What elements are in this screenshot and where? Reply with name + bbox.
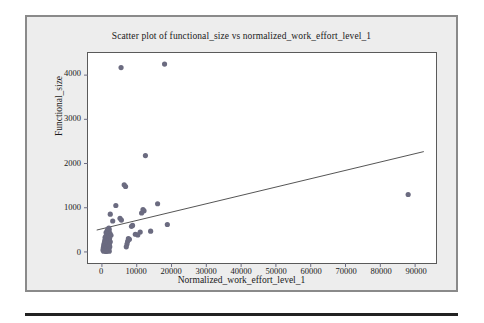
figure-page: Scatter plot of functional_size vs norma… <box>0 0 484 323</box>
data-point <box>119 218 124 223</box>
y-tick-label: 3000 <box>64 114 81 123</box>
data-point <box>143 153 148 158</box>
data-point <box>124 244 129 249</box>
data-point <box>165 222 170 227</box>
data-point <box>155 201 160 206</box>
data-point <box>162 61 167 66</box>
data-point <box>129 224 134 229</box>
x-axis-title: Normalized_work_effort_level_1 <box>27 275 456 285</box>
figure-container: Scatter plot of functional_size vs norma… <box>25 15 458 292</box>
data-point <box>148 229 153 234</box>
data-point <box>110 218 115 223</box>
data-point <box>108 212 113 217</box>
y-tick-label: 0 <box>77 248 81 257</box>
page-divider-rule <box>25 313 458 316</box>
data-point <box>113 203 118 208</box>
scatter-plot-svg <box>88 53 436 263</box>
data-point <box>104 249 109 254</box>
y-tick-label: 1000 <box>64 203 81 212</box>
data-point <box>406 192 411 197</box>
plot-area <box>87 52 437 264</box>
data-point <box>139 210 144 215</box>
trendline <box>97 152 424 230</box>
data-point <box>123 184 128 189</box>
y-tick-label: 4000 <box>64 69 81 78</box>
data-point <box>135 232 140 237</box>
data-point <box>118 65 123 70</box>
y-tick-label: 2000 <box>64 159 81 168</box>
chart-title: Scatter plot of functional_size vs norma… <box>27 31 456 41</box>
y-axis-tick-labels: 01000200030004000 <box>37 52 81 264</box>
